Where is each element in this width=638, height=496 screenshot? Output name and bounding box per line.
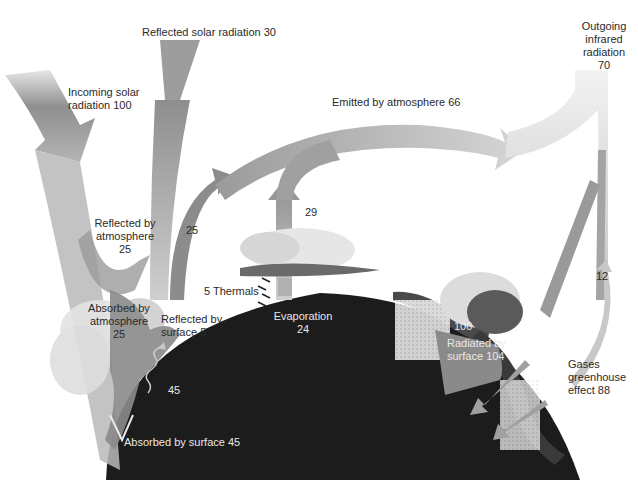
evaporation-label-1: Evaporation [268,310,338,323]
outgoing-infrared-label-4: 70 [576,59,632,72]
evaporation-column [278,278,292,296]
greenhouse-label-1: Gases [568,358,600,371]
latent-25-label: 25 [186,224,198,237]
radiated-up-arrow [540,180,600,318]
energy-budget-diagram: Reflected solar radiation 30 Incoming so… [0,0,638,496]
outgoing-infrared-label-2: infrared [576,33,632,46]
incoming-solar-label-2: radiation 100 [68,99,132,112]
reflected-atmosphere-label-1: Reflected by [88,217,162,230]
incoming-solar-arrow [5,70,95,162]
greenhouse-label-2: greenhouse [568,371,626,384]
reflected-atmosphere-label-2: atmosphere [88,230,162,243]
outgoing-infrared-label-1: Outgoing [576,20,632,33]
value-100-label: 100 [454,320,472,333]
reflected-surface-label-1: Reflected by [161,313,222,326]
radiated-surface-label-2: surface 104 [447,350,504,363]
outgoing-infrared-label-3: radiation [576,46,632,59]
reflected-surface-label-2: surface 5 [161,326,206,339]
emitted-atmosphere-label: Emitted by atmosphere 66 [332,96,460,109]
reflected-solar-label: Reflected solar radiation 30 [142,26,276,39]
reflected-atmosphere-label-3: 25 [88,243,162,256]
value-45-label: 45 [168,384,180,397]
center-cloud [240,228,380,276]
emitted-atmosphere-arrow [215,125,525,200]
thermals-label: 5 Thermals [204,285,259,298]
thermals-icon [258,278,270,306]
incoming-solar-label-1: Incoming solar [68,86,140,99]
evaporation-label-2: 24 [268,323,338,336]
absorbed-atmosphere-label-2: atmosphere [84,315,154,328]
value-12-label: 12 [596,270,608,283]
value-29-label: 29 [305,206,317,219]
radiated-surface-label-1: Radiated by [447,337,506,350]
greenhouse-label-3: effect 88 [568,384,610,397]
absorbed-atmosphere-label-3: 25 [84,328,154,341]
absorbed-atmosphere-label-1: Absorbed by [84,302,154,315]
absorbed-surface-label: Absorbed by surface 45 [124,436,240,449]
